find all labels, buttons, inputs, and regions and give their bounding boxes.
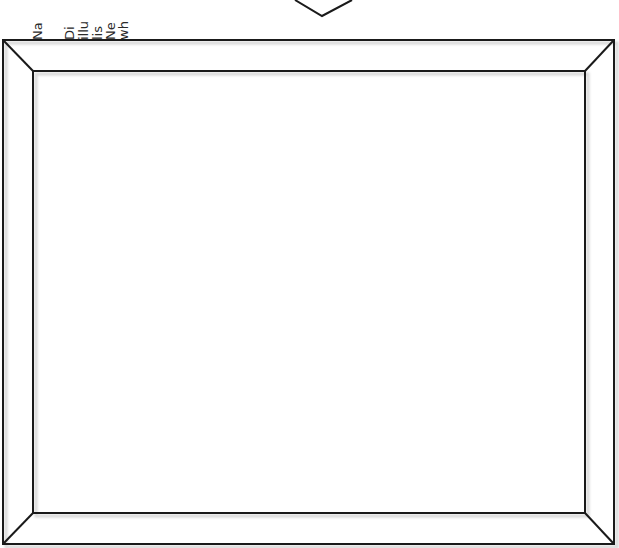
chevron-icon <box>295 0 352 16</box>
miter-bottom-right <box>585 513 614 544</box>
inner-frame <box>33 71 585 513</box>
outer-frame <box>3 40 614 544</box>
miter-top-right <box>585 40 614 71</box>
frame-shadow <box>6 43 617 547</box>
picture-frame-diagram <box>0 0 619 548</box>
